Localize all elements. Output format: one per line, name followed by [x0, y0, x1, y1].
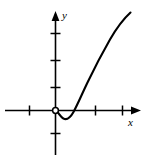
x-axis-arrowhead: [131, 107, 141, 115]
y-axis-label: y: [62, 10, 67, 21]
curve-path: [57, 13, 131, 120]
graph-figure: y x: [0, 0, 149, 159]
y-axis-arrowhead: [52, 11, 60, 21]
open-circle-icon: [53, 108, 59, 114]
x-axis-label: x: [128, 117, 133, 128]
coordinate-plane-svg: [0, 0, 149, 159]
